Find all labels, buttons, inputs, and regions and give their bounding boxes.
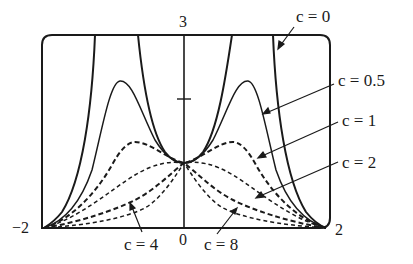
x-tick-min: −2: [12, 220, 29, 236]
label-c2: c = 2: [342, 154, 376, 171]
curve-family-plot: [0, 0, 413, 264]
x-tick-max: 2: [335, 222, 343, 238]
label-c05: c = 0.5: [338, 72, 385, 89]
curve-c05: [44, 81, 326, 228]
y-tick-max: 3: [179, 14, 187, 30]
label-c0: c = 0: [296, 8, 330, 25]
plot-frame: [42, 35, 330, 228]
label-arrows: [130, 27, 338, 234]
curve-c4: [44, 163, 326, 228]
label-c8: c = 8: [204, 236, 238, 253]
x-tick-zero: 0: [179, 232, 187, 248]
label-c4: c = 4: [124, 236, 158, 253]
label-c1: c = 1: [342, 112, 376, 129]
